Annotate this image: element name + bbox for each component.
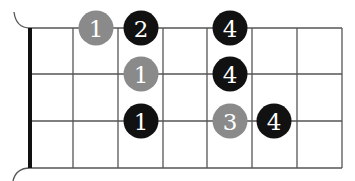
finger-number: 4 [223,16,238,42]
headstock-curve-top [14,12,30,28]
finger-dot: 3 [213,104,248,139]
finger-number: 4 [223,62,238,88]
finger-number: 2 [134,16,149,42]
finger-dot: 1 [79,11,114,46]
fretboard-diagram: 12414134 [0,0,355,181]
finger-dot: 1 [124,104,159,139]
finger-dot: 1 [124,57,159,92]
finger-dot: 4 [213,57,248,92]
finger-number: 3 [223,109,238,135]
finger-number: 4 [267,109,282,135]
finger-number: 1 [89,16,104,42]
finger-number: 1 [134,62,149,88]
headstock-curve-bottom [13,168,30,181]
finger-dot: 4 [213,11,248,46]
finger-number: 1 [134,109,149,135]
finger-dot: 4 [257,104,292,139]
finger-dot: 2 [124,11,159,46]
fret-grid [13,12,342,181]
